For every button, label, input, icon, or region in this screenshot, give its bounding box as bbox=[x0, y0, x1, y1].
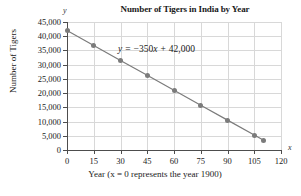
equation-equals: = bbox=[125, 44, 130, 54]
x-tick-label: 45 bbox=[132, 156, 162, 166]
y-tick-label: 15,000 bbox=[15, 102, 61, 112]
y-tick-label: 45,000 bbox=[15, 17, 61, 27]
x-tick-mark bbox=[94, 150, 95, 154]
x-tick-mark bbox=[147, 150, 148, 154]
x-axis-letter: x bbox=[288, 143, 292, 152]
data-point bbox=[225, 118, 230, 123]
equation-annotation: y=−350x+42,000 bbox=[118, 44, 195, 54]
data-point bbox=[261, 138, 266, 143]
x-tick-mark bbox=[281, 150, 282, 154]
y-axis-letter: y bbox=[63, 6, 67, 15]
x-tick-label: 60 bbox=[159, 156, 189, 166]
data-point bbox=[145, 73, 150, 78]
equation-slope: −350 bbox=[134, 44, 154, 54]
x-axis-label: Year (x = 0 represents the year 1900) bbox=[40, 169, 270, 179]
x-tick-label: 120 bbox=[266, 156, 296, 166]
y-tick-label: 25,000 bbox=[15, 74, 61, 84]
x-tick-label: 0 bbox=[52, 156, 82, 166]
x-tick-mark bbox=[121, 150, 122, 154]
x-tick-mark bbox=[254, 150, 255, 154]
plot-area bbox=[67, 22, 281, 150]
series-line bbox=[67, 22, 281, 150]
x-tick-mark bbox=[228, 150, 229, 154]
y-tick-label: 35,000 bbox=[15, 45, 61, 55]
y-tick-label: 0 bbox=[15, 145, 61, 155]
data-point bbox=[65, 28, 70, 33]
y-tick-label: 20,000 bbox=[15, 88, 61, 98]
x-tick-label: 105 bbox=[239, 156, 269, 166]
data-point bbox=[118, 58, 123, 63]
x-tick-label: 30 bbox=[106, 156, 136, 166]
chart-figure: Number of Tigers in India by Year y x Nu… bbox=[0, 0, 301, 196]
data-point bbox=[198, 103, 203, 108]
y-tick-label: 10,000 bbox=[15, 117, 61, 127]
data-point bbox=[172, 88, 177, 93]
x-tick-label: 15 bbox=[79, 156, 109, 166]
gridline-vertical bbox=[281, 22, 282, 150]
x-tick-mark bbox=[201, 150, 202, 154]
data-point bbox=[252, 133, 257, 138]
chart-title: Number of Tigers in India by Year bbox=[80, 4, 290, 14]
equation-variable: x bbox=[153, 44, 157, 54]
x-tick-label: 75 bbox=[186, 156, 216, 166]
x-tick-label: 90 bbox=[213, 156, 243, 166]
y-tick-label: 30,000 bbox=[15, 60, 61, 70]
x-tick-mark bbox=[174, 150, 175, 154]
equation-intercept: 42,000 bbox=[169, 44, 195, 54]
y-tick-label: 40,000 bbox=[15, 31, 61, 41]
equation-plus: + bbox=[160, 44, 165, 54]
equation-lhs: y bbox=[118, 44, 122, 54]
x-tick-mark bbox=[67, 150, 68, 154]
y-tick-label: 5,000 bbox=[15, 131, 61, 141]
